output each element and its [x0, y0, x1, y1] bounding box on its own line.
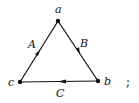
trailing-semicolon: ;	[126, 75, 130, 89]
triangle-diagram: a b c A B C ;	[0, 0, 139, 103]
vertex-label-c: c	[8, 76, 14, 89]
edge-label-B: B	[79, 37, 88, 50]
edge-label-A: A	[27, 38, 36, 51]
vertex-a	[56, 19, 60, 23]
vertex-label-a: a	[55, 3, 62, 16]
edge-label-C: C	[56, 87, 65, 100]
vertex-c	[18, 80, 22, 84]
arrow-C-icon	[58, 80, 66, 84]
vertex-label-b: b	[104, 75, 111, 88]
vertex-b	[96, 79, 100, 83]
